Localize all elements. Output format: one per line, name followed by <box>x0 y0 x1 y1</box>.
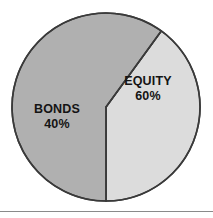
pie-label-equity-name: EQUITY <box>108 74 188 89</box>
pie-label-bonds-value: 40% <box>17 117 97 132</box>
bottom-divider-rule <box>0 211 213 212</box>
pie-label-equity-value: 60% <box>108 89 188 104</box>
pie-label-bonds-name: BONDS <box>17 102 97 117</box>
pie-label-bonds: BONDS 40% <box>17 102 97 132</box>
pie-label-equity: EQUITY 60% <box>108 74 188 104</box>
pie-chart-figure: EQUITY 60% BONDS 40% <box>0 0 213 218</box>
